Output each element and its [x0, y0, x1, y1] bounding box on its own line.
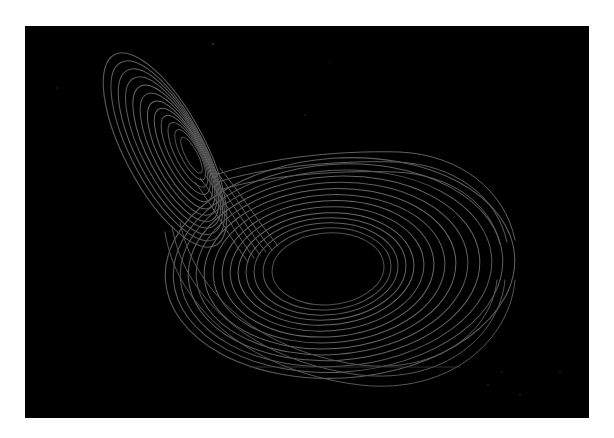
upper-left-lobe	[79, 36, 251, 264]
trajectory-group	[79, 36, 522, 390]
attractor-panel	[25, 26, 589, 418]
lorenz-attractor-plot	[25, 26, 589, 418]
image-frame	[0, 0, 614, 438]
